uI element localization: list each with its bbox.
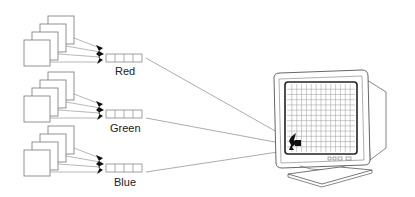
red-connector bbox=[146, 58, 293, 141]
channel-label-red: Red bbox=[115, 65, 135, 77]
blue-connector bbox=[146, 150, 291, 172]
channel-label-blue: Blue bbox=[114, 176, 136, 188]
green-channel bbox=[24, 72, 142, 122]
framebuffer-diagram: Red Green Blue bbox=[0, 0, 415, 197]
channel-label-green: Green bbox=[110, 122, 141, 134]
red-channel bbox=[24, 16, 142, 66]
green-connector bbox=[146, 118, 291, 145]
crt-monitor bbox=[274, 70, 386, 187]
